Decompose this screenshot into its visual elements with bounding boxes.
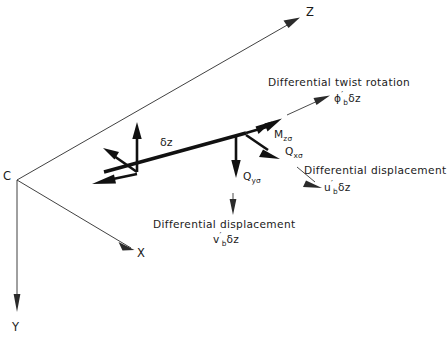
left-horizontal-arrow	[92, 174, 137, 184]
y-axis: Y	[11, 180, 20, 334]
displacement-u-leader-arrowhead	[303, 181, 322, 189]
displacement-v-caption: Differential displacement	[153, 218, 295, 230]
delta-z-label: δz	[160, 136, 173, 149]
shear-x-arrowhead	[259, 150, 280, 160]
annotation-differential-displacement-u: Differential displacement u′bδz	[297, 164, 446, 196]
displacement-u-symbol: u′bδz	[324, 179, 351, 196]
beam-element-diagram: Z X Y C δz	[0, 0, 448, 339]
displacement-u-caption: Differential displacement	[304, 164, 446, 176]
x-axis: X	[17, 180, 145, 260]
moment-z-symbol: M	[274, 128, 283, 140]
twist-symbol-base: ϕ	[334, 92, 341, 104]
shear-y-symbol: Q	[243, 170, 252, 182]
z-axis-arrowhead	[284, 18, 301, 29]
displacement-v-leader-arrowhead	[230, 199, 237, 215]
z-axis-label: Z	[306, 5, 314, 19]
y-axis-arrowhead	[14, 294, 21, 312]
x-axis-arrowhead	[119, 242, 135, 251]
shear-x-symbol: Q	[285, 145, 294, 157]
u-symbol-base: u	[324, 181, 331, 193]
x-axis-line	[17, 180, 131, 248]
beam-segment	[104, 133, 246, 172]
annotation-differential-twist-rotation: Differential twist rotation ϕ′bδz	[268, 76, 410, 115]
left-end-arrows	[92, 122, 142, 184]
left-vertical-arrowhead	[132, 122, 141, 139]
x-axis-label: X	[137, 246, 145, 260]
shear-x-subscript: xσ	[294, 151, 304, 160]
twist-symbol-tail: δz	[348, 92, 361, 104]
u-symbol-tail: δz	[338, 181, 351, 193]
left-horizontal-arrowhead	[92, 175, 116, 185]
moment-z-subscript: zσ	[283, 134, 292, 143]
shear-y-arrowhead	[231, 160, 240, 178]
twist-rotation-caption: Differential twist rotation	[268, 76, 410, 88]
axes-group: Z X Y C	[3, 5, 314, 334]
twist-rotation-leader-arrowhead	[314, 96, 331, 106]
displacement-v-symbol: v′bδz	[213, 231, 239, 248]
origin-label: C	[3, 169, 11, 183]
annotation-differential-displacement-v: Differential displacement v′bδz	[153, 193, 295, 248]
figure-root: Z X Y C δz	[0, 0, 448, 339]
y-axis-label: Y	[11, 320, 20, 334]
shear-y-label: Qyσ	[243, 170, 261, 185]
right-end-arrows: Mzσ Qxσ Qyσ	[231, 119, 303, 186]
shear-x-label: Qxσ	[285, 145, 303, 160]
beam-element-group: δz	[104, 133, 246, 172]
shear-y-subscript: yσ	[252, 176, 262, 185]
twist-rotation-symbol: ϕ′bδz	[334, 90, 361, 107]
v-symbol-tail: δz	[227, 233, 240, 245]
left-horizontal-arrow-shaft	[113, 174, 137, 179]
shear-x-arrow-shaft	[246, 135, 268, 150]
moment-z-label: Mzσ	[274, 128, 292, 143]
